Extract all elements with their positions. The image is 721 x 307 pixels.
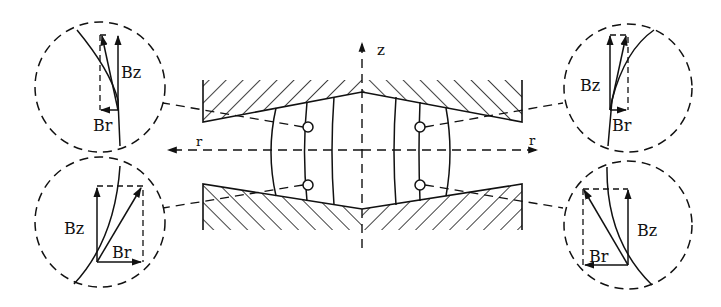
bz-label: Bz [580, 76, 600, 95]
bz-label: Bz [121, 63, 141, 82]
r-axis: r r [168, 133, 537, 150]
inset-bottom-right: Bz Br [564, 161, 692, 289]
br-label: Br [112, 243, 132, 262]
r-axis-right-label: r [529, 133, 536, 148]
bz-label: Bz [637, 221, 657, 240]
sample-points [303, 122, 425, 190]
br-label: Br [589, 247, 609, 266]
pole-piece-field-diagram: z r r Bz Br Bz Br [0, 0, 721, 307]
inset-top-right: Bz Br [564, 24, 692, 152]
bz-label: Bz [64, 219, 84, 238]
br-label: Br [93, 116, 113, 135]
upper-pole-piece [203, 80, 522, 122]
z-axis-label: z [377, 41, 385, 59]
br-label: Br [612, 116, 632, 135]
inset-bottom-left: Bz Br [35, 157, 165, 287]
inset-top-left: Bz Br [35, 22, 165, 152]
lower-pole-piece [203, 184, 522, 230]
r-axis-left-label: r [196, 134, 203, 149]
